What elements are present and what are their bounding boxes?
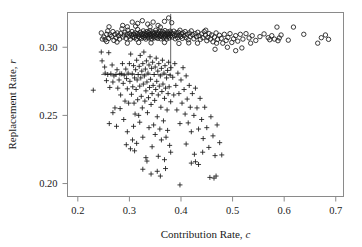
data-point-plus xyxy=(154,79,159,84)
data-point-plus xyxy=(124,76,129,81)
data-point-circle xyxy=(323,33,327,37)
data-point-plus xyxy=(155,169,160,174)
data-point-plus xyxy=(134,58,139,63)
data-point-plus xyxy=(198,96,203,101)
data-point-plus xyxy=(178,77,183,82)
x-axis-ticks xyxy=(78,197,336,202)
data-point-plus xyxy=(162,96,167,101)
data-point-plus xyxy=(152,98,157,103)
data-point-plus xyxy=(172,61,177,66)
data-point-plus xyxy=(118,92,123,97)
data-point-plus xyxy=(186,120,191,125)
data-point-plus xyxy=(204,125,209,130)
data-point-circle xyxy=(250,33,254,37)
data-point-plus xyxy=(148,54,153,59)
data-point-plus xyxy=(107,85,112,90)
data-point-plus xyxy=(147,62,152,67)
data-point-plus xyxy=(161,118,166,123)
data-point-circle xyxy=(166,16,170,20)
data-point-plus xyxy=(137,120,142,125)
data-point-plus xyxy=(134,87,139,92)
plot-canvas: 0.20.30.40.50.60.7 0.200.250.30 Contribu… xyxy=(0,0,362,247)
data-point-plus xyxy=(152,72,157,77)
data-point-plus xyxy=(110,62,115,67)
data-point-plus xyxy=(180,101,185,106)
data-point-plus xyxy=(168,99,173,104)
data-point-plus xyxy=(165,68,170,73)
data-point-plus xyxy=(130,84,135,89)
data-point-plus xyxy=(156,154,161,159)
data-point-plus xyxy=(177,121,182,126)
data-point-plus xyxy=(106,50,111,55)
data-point-plus xyxy=(213,153,218,158)
data-point-plus xyxy=(163,166,168,171)
y-tick-label: 0.20 xyxy=(39,178,57,189)
data-point-plus xyxy=(201,136,206,141)
data-point-plus xyxy=(175,71,180,76)
data-point-circle xyxy=(107,25,111,29)
y-tick-label: 0.25 xyxy=(39,110,57,121)
data-point-circle xyxy=(151,20,155,24)
data-point-plus xyxy=(100,58,105,63)
x-tick-label: 0.7 xyxy=(329,205,342,216)
data-point-circle xyxy=(238,32,242,36)
data-point-plus xyxy=(117,77,122,82)
data-point-circle xyxy=(240,46,244,50)
data-point-plus xyxy=(128,52,133,57)
data-point-plus xyxy=(149,172,154,177)
data-point-plus xyxy=(124,142,129,147)
data-point-plus xyxy=(150,144,155,149)
data-point-circle xyxy=(130,20,134,24)
data-point-plus xyxy=(143,88,148,93)
x-axis-label: Contribution Rate, c xyxy=(161,228,251,240)
data-point-plus xyxy=(165,128,170,133)
data-point-plus xyxy=(217,140,222,145)
data-point-plus xyxy=(164,135,169,140)
data-point-plus xyxy=(177,182,182,187)
plus-series-markers xyxy=(91,50,224,188)
data-point-plus xyxy=(112,105,117,110)
y-axis-ticks xyxy=(63,47,68,183)
data-point-plus xyxy=(164,75,169,80)
data-point-plus xyxy=(153,87,158,92)
data-point-circle xyxy=(244,31,248,35)
data-point-circle xyxy=(286,38,290,42)
data-point-plus xyxy=(142,99,147,104)
data-point-plus xyxy=(160,58,165,63)
data-point-plus xyxy=(121,81,126,86)
data-point-plus xyxy=(173,83,178,88)
data-point-circle xyxy=(316,41,320,45)
data-point-plus xyxy=(125,129,130,134)
y-axis-tick-labels: 0.200.250.30 xyxy=(39,42,57,189)
data-point-plus xyxy=(104,78,109,83)
data-point-plus xyxy=(151,122,156,127)
data-point-circle xyxy=(162,19,166,23)
data-point-plus xyxy=(193,86,198,91)
x-tick-label: 0.3 xyxy=(123,205,136,216)
data-point-plus xyxy=(194,105,199,110)
data-point-circle xyxy=(195,41,199,45)
data-point-plus xyxy=(167,143,172,148)
data-point-circle xyxy=(225,45,229,49)
data-point-plus xyxy=(196,127,201,132)
data-point-circle xyxy=(247,36,251,40)
data-point-plus xyxy=(158,105,163,110)
data-point-circle xyxy=(248,41,252,45)
data-point-plus xyxy=(188,105,193,110)
data-point-plus xyxy=(145,110,150,115)
y-axis-label: Replacement Rate, r xyxy=(6,59,18,150)
data-point-plus xyxy=(150,91,155,96)
data-point-plus xyxy=(136,72,141,77)
data-point-circle xyxy=(177,41,181,45)
data-point-circle xyxy=(326,37,330,41)
data-point-plus xyxy=(199,117,204,122)
data-point-circle xyxy=(302,32,306,36)
data-point-circle xyxy=(319,36,323,40)
data-point-plus xyxy=(118,106,123,111)
data-point-circle xyxy=(162,40,166,44)
data-point-plus xyxy=(165,107,170,112)
data-point-plus xyxy=(156,92,161,97)
data-point-plus xyxy=(144,58,149,63)
data-point-circle xyxy=(213,47,217,51)
data-point-circle xyxy=(136,40,140,44)
